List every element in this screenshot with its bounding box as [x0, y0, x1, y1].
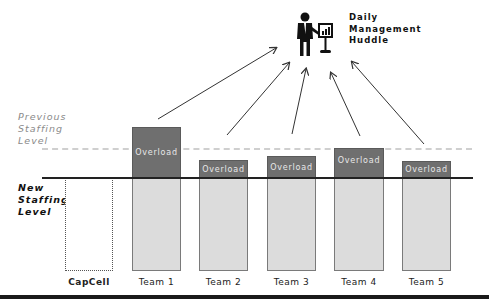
presenter-with-chart-board-icon: [297, 13, 332, 57]
arrows-to-huddle: [158, 48, 424, 144]
arrows-and-icon-layer: [0, 0, 489, 307]
